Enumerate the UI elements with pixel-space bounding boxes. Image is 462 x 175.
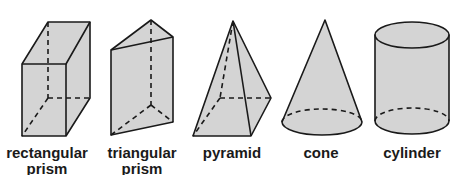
triangular-prism-shape xyxy=(111,20,173,135)
label-line: prism xyxy=(4,161,90,175)
cone-shape xyxy=(282,20,362,135)
label-cone: cone xyxy=(290,145,352,161)
label-rectangular-prism: rectangular prism xyxy=(4,145,90,175)
label-cylinder: cylinder xyxy=(376,145,448,161)
label-line: pyramid xyxy=(192,145,272,161)
rectangular-prism-shape xyxy=(22,22,90,136)
label-line: cylinder xyxy=(376,145,448,161)
label-line: prism xyxy=(99,161,185,175)
label-line: triangular xyxy=(99,145,185,161)
label-triangular-prism: triangular prism xyxy=(99,145,185,175)
pyramid-shape xyxy=(193,21,271,136)
solid-shapes-figure: rectangular prism triangular prism pyram… xyxy=(0,0,462,175)
label-line: rectangular xyxy=(4,145,90,161)
cylinder-shape xyxy=(375,22,449,134)
label-line: cone xyxy=(290,145,352,161)
label-pyramid: pyramid xyxy=(192,145,272,161)
